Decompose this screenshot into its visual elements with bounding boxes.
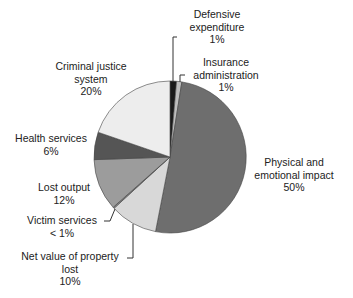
label-text: system [48, 73, 134, 86]
label-text: lost [16, 263, 124, 276]
label-text: emotional impact [250, 169, 338, 182]
label-text: Defensive [182, 8, 252, 21]
label-net-value-property-lost: Net value of property lost 10% [16, 250, 124, 288]
label-value: 20% [48, 85, 134, 98]
label-defensive-expenditure: Defensive expenditure 1% [182, 8, 252, 46]
label-criminal-justice-system: Criminal justice system 20% [48, 60, 134, 98]
label-value: 1% [182, 33, 252, 46]
label-text: Net value of property [16, 250, 124, 263]
label-health-services: Health services 6% [10, 132, 92, 157]
label-value: 50% [250, 181, 338, 194]
label-text: Victim services [22, 214, 102, 227]
label-text: Physical and [250, 156, 338, 169]
label-value: < 1% [22, 227, 102, 240]
label-text: Lost output [30, 181, 98, 194]
label-value: 10% [16, 275, 124, 288]
label-text: expenditure [182, 21, 252, 34]
label-lost-output: Lost output 12% [30, 181, 98, 206]
leader-victim [104, 209, 115, 221]
label-insurance-administration: Insurance administration 1% [190, 56, 262, 94]
leader-defensive [173, 37, 177, 82]
label-victim-services: Victim services < 1% [22, 214, 102, 239]
label-physical-emotional-impact: Physical and emotional impact 50% [250, 156, 338, 194]
label-text: Criminal justice [48, 60, 134, 73]
pie-slices [94, 81, 246, 233]
label-text: Insurance [190, 56, 262, 69]
leader-property [127, 224, 133, 258]
label-value: 6% [10, 145, 92, 158]
label-value: 12% [30, 194, 98, 207]
label-text: administration [190, 69, 262, 82]
label-value: 1% [190, 81, 262, 94]
leader-insurance [180, 75, 185, 82]
label-text: Health services [10, 132, 92, 145]
